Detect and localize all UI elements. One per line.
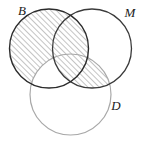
venn-diagram-canvas: B M D [0,0,146,142]
set-label-m: M [124,5,137,20]
venn-diagram-figure: B M D [0,0,146,142]
set-label-b: B [18,3,26,18]
set-label-d: D [110,98,121,113]
